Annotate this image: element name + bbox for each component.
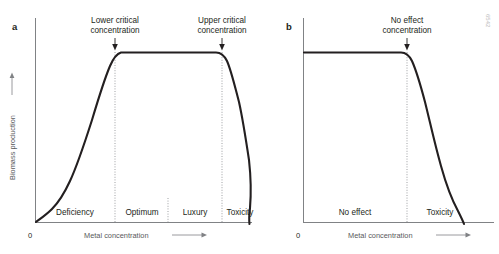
figure-id-corner: 6542 (485, 14, 491, 28)
panel-a-lower-critical-label-line2: concentration (90, 26, 140, 35)
panel-a-upper-critical-marker: Upper critical concentration (197, 16, 247, 51)
panel-b-zone-no-effect: No effect (339, 208, 372, 217)
panel-a-zone-deficiency: Deficiency (56, 208, 95, 217)
panel-a-x-axis-label: Metal concentration (84, 231, 149, 240)
panel-a-y-axis-arrow-head (10, 73, 15, 79)
panel-b-label: b (286, 21, 292, 32)
panel-a-zone-toxicity: Toxicity (227, 208, 255, 217)
panel-a-label: a (12, 21, 18, 32)
panel-a-x-axis-label-group: Metal concentration (84, 231, 207, 240)
panel-a-upper-critical-label-line1: Upper critical (198, 16, 246, 25)
panel-b: b 0 Metal concentration No effect concen… (286, 16, 494, 240)
panel-b-zone-toxicity: Toxicity (427, 208, 455, 217)
panel-b-no-effect-marker: No effect concentration (382, 16, 432, 51)
panel-b-x-axis-label: Metal concentration (348, 231, 413, 240)
panel-b-x-axis-arrow-head (466, 233, 472, 238)
panel-a-lower-critical-arrow-head (112, 44, 118, 51)
panel-a-response-curve (36, 53, 251, 225)
panel-b-no-effect-label-line2: concentration (382, 26, 432, 35)
panel-b-x-axis-label-group: Metal concentration (348, 231, 471, 240)
panel-a-y-axis-label-group: Biomass production (8, 73, 17, 181)
panel-a-origin-label: 0 (28, 231, 32, 240)
panel-a-upper-critical-label-line2: concentration (197, 26, 247, 35)
panel-a-lower-critical-marker: Lower critical concentration (90, 16, 140, 51)
panel-a-lower-critical-label-line1: Lower critical (91, 16, 139, 25)
panel-a-zone-luxury: Luxury (183, 208, 208, 217)
panel-a-y-axis-label: Biomass production (8, 115, 17, 180)
panel-a-x-axis-arrow-head (202, 233, 208, 238)
panel-a-upper-critical-arrow-head (219, 44, 225, 51)
figure-svg: a Biomass production 0 Metal concentrati… (0, 0, 499, 254)
panel-b-no-effect-arrow-head (404, 44, 410, 51)
panel-b-response-curve (304, 53, 464, 225)
figure-container: a Biomass production 0 Metal concentrati… (0, 0, 499, 254)
panel-b-origin-label: 0 (296, 231, 300, 240)
panel-a: a Biomass production 0 Metal concentrati… (8, 16, 254, 240)
panel-b-no-effect-label-line1: No effect (391, 16, 424, 25)
panel-a-zone-optimum: Optimum (125, 208, 158, 217)
